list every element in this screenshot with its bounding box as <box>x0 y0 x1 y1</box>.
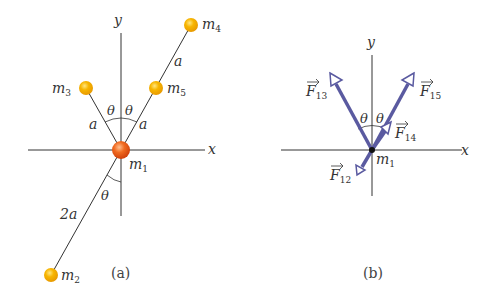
panel-b: y x θ θ F13 F15 <box>281 34 469 281</box>
svg-text:F13: F13 <box>305 83 327 101</box>
svg-text:F14: F14 <box>394 125 416 143</box>
svg-text:F12: F12 <box>329 167 351 185</box>
mass-m4 <box>184 18 198 32</box>
dist-m1-m3: a <box>89 116 97 132</box>
panel-a: y x θ θ θ a a a 2a m3 m5 m4 m1 m2 (a) <box>28 12 221 285</box>
x-axis-label-a: x <box>208 141 216 157</box>
origin-m1-dot <box>369 147 375 153</box>
label-m2: m2 <box>61 267 80 285</box>
label-f13: F13 <box>305 79 327 101</box>
theta-right-a: θ <box>125 103 133 118</box>
mass-m2 <box>44 268 58 282</box>
diagram-canvas: y x θ θ θ a a a 2a m3 m5 m4 m1 m2 (a) <box>0 0 477 298</box>
theta-right-b: θ <box>376 111 384 126</box>
angle-arc-lower <box>107 175 121 182</box>
caption-a: (a) <box>111 265 130 281</box>
svg-text:F15: F15 <box>419 83 441 101</box>
mass-m1 <box>112 141 130 159</box>
mass-m5 <box>149 81 163 95</box>
force-arrow-f12 <box>356 150 372 175</box>
label-f14: F14 <box>394 121 416 143</box>
mass-m3 <box>79 81 93 95</box>
label-f12: F12 <box>329 163 351 185</box>
caption-b: (b) <box>363 265 383 281</box>
y-axis-label-a: y <box>113 12 123 28</box>
theta-left-b: θ <box>360 111 368 126</box>
x-axis-label-b: x <box>461 142 469 158</box>
label-m4: m4 <box>202 16 221 34</box>
label-m5: m5 <box>167 80 186 98</box>
dist-m1-m5: a <box>139 116 147 132</box>
label-m1-b: m1 <box>376 151 395 169</box>
label-m3: m3 <box>52 80 71 98</box>
dist-m1-m2: 2a <box>59 206 77 222</box>
theta-left-a: θ <box>107 103 115 118</box>
force-arrow-f14 <box>372 122 391 150</box>
dist-m5-m4: a <box>174 53 182 69</box>
y-axis-label-b: y <box>366 34 376 50</box>
label-m1: m1 <box>129 156 148 174</box>
label-f15: F15 <box>419 79 441 101</box>
theta-lower-a: θ <box>101 188 109 203</box>
